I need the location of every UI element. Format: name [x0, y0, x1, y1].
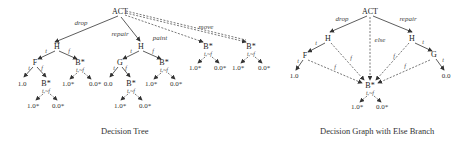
graph-node-f: F	[303, 51, 308, 60]
label-tnf: t,~f	[160, 67, 169, 73]
edge-b-nf	[50, 94, 57, 100]
edge-move	[126, 13, 246, 42]
label-t: t	[130, 48, 132, 54]
graph-node-g: G	[431, 50, 437, 59]
edge-b-nf	[84, 73, 91, 79]
tree-node-h1: H	[54, 42, 60, 51]
edge-b-t	[121, 94, 128, 100]
label-tnf: t,~f	[366, 90, 375, 96]
decision-tree: ACT drop repair paint move H t f F t f 1…	[18, 7, 271, 110]
leaf: 1.0*	[232, 64, 245, 72]
caption-decision-graph: Decision Graph with Else Branch	[320, 126, 434, 136]
label-move: move	[199, 23, 214, 31]
tree-node-g: G	[117, 58, 123, 67]
edge-b-nf	[212, 57, 219, 63]
label-drop: drop	[75, 19, 88, 27]
diagram-canvas: ACT drop repair paint move H t f F t f 1…	[0, 0, 468, 143]
label-f: f	[41, 65, 44, 71]
label-f: f	[152, 48, 155, 54]
edge-b-nf	[255, 57, 262, 63]
label-f: f	[334, 64, 337, 70]
label-f: f	[125, 65, 128, 71]
leaf: 0.0*	[52, 102, 65, 110]
tree-node-b-paint: B*	[203, 42, 212, 51]
label-t: t	[45, 48, 47, 54]
label-t: t	[113, 65, 115, 71]
edge-b-nf	[135, 94, 142, 100]
label-repair: repair	[399, 15, 417, 23]
edge-h1-f	[331, 43, 364, 80]
tree-node-f: F	[33, 58, 38, 67]
leaf: 0.0*	[139, 102, 152, 110]
leaf: 1.0*	[114, 102, 127, 110]
label-drop: drop	[336, 15, 349, 23]
tree-node-b: B*	[41, 79, 50, 88]
edge-b-t	[360, 96, 367, 102]
leaf: 0.0	[104, 80, 113, 88]
leaf: 0.0*	[214, 64, 227, 72]
leaf: 1.0*	[189, 64, 202, 72]
edge-b-nf	[374, 96, 381, 102]
label-tnf: t,~f	[127, 88, 136, 94]
graph-node-h1: H	[325, 34, 331, 43]
graph-root-act: ACT	[362, 7, 378, 16]
leaf: 0.0*	[258, 64, 271, 72]
leaf: 1.0	[18, 80, 27, 88]
label-else: else	[375, 36, 386, 44]
decision-graph: ACT drop repair else H t f F t 1.0 f H t…	[290, 7, 451, 111]
tree-node-b-move: B*	[246, 42, 255, 51]
label-f: f	[404, 63, 407, 69]
leaf: 0.0*	[170, 80, 183, 88]
edge-b-t	[36, 94, 43, 100]
tree-node-b: B*	[126, 79, 135, 88]
tree-node-b: B*	[159, 58, 168, 67]
label-f: f	[393, 53, 396, 59]
edge-b-t	[241, 57, 248, 63]
leaf: 1.0	[290, 72, 299, 80]
leaf: 0.0	[442, 72, 451, 80]
edge-move-double	[126, 11, 246, 40]
label-t: t	[315, 40, 317, 46]
graph-node-h2: H	[409, 34, 415, 43]
edge-b-nf	[168, 73, 175, 79]
caption-decision-tree: Decision Tree	[101, 126, 148, 136]
leaf: 0.0*	[89, 80, 102, 88]
label-tnf: t,~f	[247, 51, 256, 57]
label-t: t	[442, 57, 444, 63]
leaf: 1.0*	[145, 80, 158, 88]
label-tnf: t,~f	[42, 88, 51, 94]
leaf: 1.0*	[351, 103, 364, 111]
label-f: f	[68, 48, 71, 54]
tree-root-act: ACT	[112, 7, 128, 16]
leaf: 1.0*	[62, 80, 75, 88]
edge-h2-f	[376, 43, 409, 80]
leaf: 0.0*	[376, 103, 389, 111]
label-t: t	[422, 39, 424, 45]
leaf: 1.0*	[27, 102, 40, 110]
tree-node-b: B*	[75, 58, 84, 67]
edge-b-t	[198, 57, 205, 63]
graph-node-b: B*	[365, 81, 374, 90]
edge-b-t	[154, 73, 161, 79]
label-t: t	[297, 58, 299, 64]
label-f: f	[350, 55, 353, 61]
edge-b-t	[70, 73, 77, 79]
tree-node-h2: H	[138, 42, 144, 51]
label-tnf: t,~f	[76, 67, 85, 73]
label-paint: paint	[152, 34, 168, 42]
label-tnf: t,~f	[204, 51, 213, 57]
label-repair: repair	[111, 30, 129, 38]
